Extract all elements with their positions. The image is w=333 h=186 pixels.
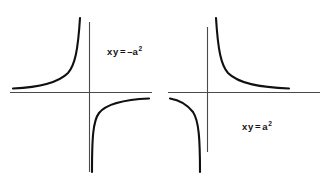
left-equation-equals: = xyxy=(119,46,127,57)
right-panel-equation-label: xy=a2 xyxy=(242,122,272,132)
right-equation-exponent: 2 xyxy=(268,120,272,127)
right-equation-lhs: xy xyxy=(242,121,254,132)
left-equation-lhs: xy xyxy=(107,46,119,57)
left-panel-curve-quadrant-2 xyxy=(13,18,80,89)
right-panel-curve-quadrant-3 xyxy=(170,99,200,173)
diagram-canvas xyxy=(0,0,333,186)
left-panel xyxy=(10,18,152,172)
right-panel-curve-quadrant-1 xyxy=(216,18,289,89)
right-panel xyxy=(168,18,320,172)
left-panel-equation-label: xy=–a2 xyxy=(107,47,142,57)
hyperbola-figure: xy=–a2 xy=a2 xyxy=(0,0,333,186)
right-equation-equals: = xyxy=(254,121,262,132)
left-panel-curve-quadrant-4 xyxy=(92,99,149,173)
left-equation-exponent: 2 xyxy=(139,45,143,52)
